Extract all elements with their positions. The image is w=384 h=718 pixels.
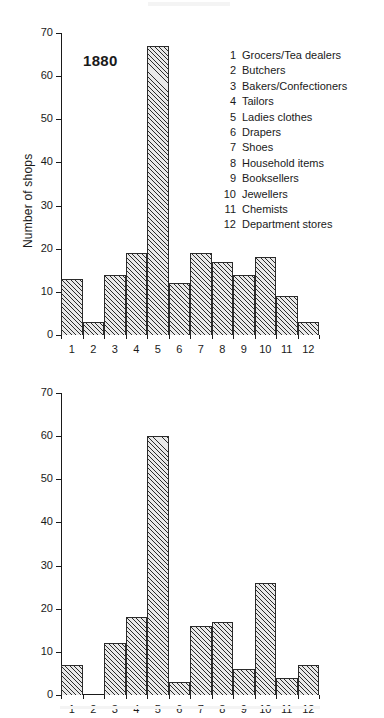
legend-item-label: Grocers/Tea dealers [242, 48, 381, 63]
legend-item-key: 10 [219, 187, 236, 202]
y-axis-tick: 70 [56, 33, 61, 34]
bar [147, 436, 169, 695]
legend-item-key: 3 [219, 79, 236, 94]
bar [255, 583, 277, 695]
x-axis-tick [83, 695, 84, 699]
scan-artifact-bottom [60, 706, 320, 709]
y-axis-tick: 60 [56, 76, 61, 77]
x-axis-tick-label: 8 [211, 343, 233, 356]
x-axis-tick-label: 10 [254, 703, 276, 716]
bar [276, 296, 298, 335]
legend-item-key: 8 [219, 156, 236, 171]
bar [61, 665, 83, 695]
x-axis-tick [255, 695, 256, 699]
x-axis-tick-label: 12 [297, 343, 319, 356]
legend: 1Grocers/Tea dealers2Butchers3Bakers/Con… [219, 48, 381, 233]
x-axis-tick [255, 335, 256, 339]
x-axis-tick-label: 9 [233, 343, 255, 356]
x-axis-tick-label: 4 [125, 703, 147, 716]
legend-item: 5Ladies clothes [219, 110, 381, 125]
x-axis-tick-label: 5 [147, 703, 169, 716]
y-axis-tick-label: 0 [31, 688, 53, 701]
y-axis-tick-label: 50 [31, 112, 53, 125]
y-axis-tick: 40 [56, 162, 61, 163]
x-axis-tick-label: 4 [125, 343, 147, 356]
y-axis-tick-label: 30 [31, 559, 53, 572]
x-axis-tick-label: 1 [61, 703, 83, 716]
x-axis-tick-label: 7 [190, 703, 212, 716]
x-axis-tick [319, 695, 320, 699]
legend-item-label: Bakers/Confectioners [242, 79, 381, 94]
y-axis-tick: 50 [56, 479, 61, 480]
y-axis-tick-label: 50 [31, 472, 53, 485]
bar [147, 46, 169, 335]
legend-item-label: Ladies clothes [242, 110, 381, 125]
bar [298, 665, 320, 695]
x-axis-tick [298, 335, 299, 339]
x-axis-tick [126, 695, 127, 699]
y-axis-tick-label: 0 [31, 328, 53, 341]
y-axis-tick-label: 30 [31, 199, 53, 212]
x-axis-tick-label: 6 [168, 703, 190, 716]
legend-item-key: 6 [219, 125, 236, 140]
x-axis-tick [61, 695, 62, 699]
legend-item-key: 1 [219, 48, 236, 63]
x-axis-tick-label: 3 [104, 703, 126, 716]
legend-item-key: 7 [219, 140, 236, 155]
x-axis-tick [276, 695, 277, 699]
bar [298, 322, 320, 335]
bar [83, 322, 105, 335]
legend-item-label: Jewellers [242, 187, 381, 202]
y-axis-tick: 30 [56, 206, 61, 207]
legend-item: 2Butchers [219, 63, 381, 78]
bar [233, 669, 255, 695]
legend-item-label: Butchers [242, 63, 381, 78]
x-axis-tick-label: 8 [211, 703, 233, 716]
y-axis-tick: 60 [56, 436, 61, 437]
x-axis-tick-label: 11 [276, 343, 298, 356]
legend-item: 11Chemists [219, 202, 381, 217]
y-axis-tick: 20 [56, 249, 61, 250]
legend-item-key: 9 [219, 171, 236, 186]
legend-item-label: Booksellers [242, 171, 381, 186]
x-axis-tick [147, 335, 148, 339]
y-axis-tick: 40 [56, 522, 61, 523]
legend-item: 12Department stores [219, 217, 381, 232]
legend-item: 3Bakers/Confectioners [219, 79, 381, 94]
x-axis-tick [83, 335, 84, 339]
bar [276, 678, 298, 695]
legend-item-label: Shoes [242, 140, 381, 155]
bar [126, 253, 148, 335]
y-axis-tick-label: 10 [31, 285, 53, 298]
legend-item-key: 11 [219, 202, 236, 217]
y-axis-tick: 30 [56, 566, 61, 567]
x-axis-tick-label: 2 [82, 703, 104, 716]
x-axis-tick-label: 9 [233, 703, 255, 716]
bar [169, 682, 191, 695]
y-axis-tick-label: 60 [31, 429, 53, 442]
bar [190, 253, 212, 335]
y-axis-tick-label: 20 [31, 242, 53, 255]
legend-item-label: Chemists [242, 202, 381, 217]
x-axis-tick [169, 335, 170, 339]
x-axis-tick [212, 695, 213, 699]
x-axis-tick [190, 695, 191, 699]
legend-item: 7Shoes [219, 140, 381, 155]
y-axis-tick-label: 70 [31, 26, 53, 39]
x-axis-tick [298, 695, 299, 699]
y-axis-tick-label: 40 [31, 515, 53, 528]
x-axis-tick [126, 335, 127, 339]
x-axis-tick [104, 695, 105, 699]
legend-item: 10Jewellers [219, 187, 381, 202]
x-axis-tick [169, 695, 170, 699]
x-axis-tick-label: 6 [168, 343, 190, 356]
plot-area-1911: 010203040506070 123456789101112 [61, 393, 319, 695]
chart-panel-1911: Number of shops 1911 010203040506070 123… [0, 360, 384, 718]
bar [169, 283, 191, 335]
bar [233, 275, 255, 335]
x-axis-tick-label: 12 [297, 703, 319, 716]
y-axis-tick-label: 40 [31, 155, 53, 168]
legend-item-key: 4 [219, 94, 236, 109]
legend-item: 8Household items [219, 156, 381, 171]
y-axis-tick-label: 20 [31, 602, 53, 615]
